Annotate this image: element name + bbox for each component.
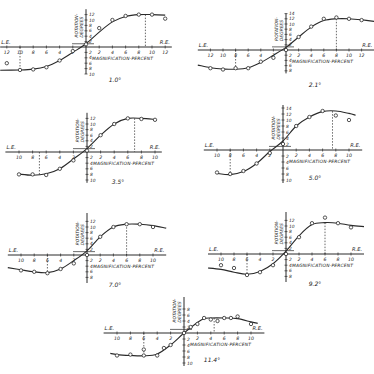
- x-tick-label: 4: [58, 50, 61, 55]
- x-tick-label: 2: [196, 336, 199, 341]
- x-tick-label: 8: [31, 155, 34, 160]
- panel-caption: 5.0°: [309, 174, 322, 181]
- data-point: [129, 353, 132, 356]
- data-point: [223, 316, 226, 319]
- data-point: [323, 216, 326, 219]
- data-point: [232, 266, 235, 269]
- data-point: [308, 115, 311, 118]
- y-tick-label: 6: [289, 235, 292, 240]
- y-tick-label: 4: [89, 34, 92, 39]
- y-tick-label: 6: [90, 133, 93, 138]
- data-point: [236, 315, 239, 318]
- y-tick-label: 12: [286, 112, 292, 117]
- x-axis-title: MAGNIFICATION-PERCENT: [190, 342, 251, 347]
- data-point: [140, 117, 143, 120]
- x-tick-label: 6: [321, 153, 324, 158]
- y-tick-label: 2: [90, 155, 93, 160]
- chart-panel-5-0-deg: 1086422468101412108642246810L.E.R.E.MAGN…: [204, 105, 362, 183]
- data-point: [113, 122, 116, 125]
- y-tick-label: 6: [90, 236, 93, 241]
- chart-panel-7-0-deg: 108642246810121086422468L.E.R.E.MAGNIFIC…: [8, 213, 166, 288]
- data-point: [209, 318, 212, 321]
- x-tick-label: 8: [137, 50, 140, 55]
- x-tick-label: 4: [308, 153, 311, 158]
- data-point: [196, 322, 199, 325]
- data-point: [209, 67, 212, 70]
- y-tick-label: 2: [90, 258, 93, 263]
- data-point: [215, 171, 218, 174]
- y-tick-label: 10: [90, 122, 96, 127]
- x-tick-label: 2: [99, 258, 102, 263]
- data-point: [124, 14, 127, 17]
- y-tick-label: 8: [187, 307, 190, 312]
- x-tick-label: 8: [138, 258, 141, 263]
- y-tick-label: 10: [89, 18, 95, 23]
- y-tick-label: 8: [89, 23, 92, 28]
- y-tick-label: 12: [89, 12, 95, 17]
- data-point: [137, 13, 140, 16]
- y-tick-label: 14: [286, 106, 292, 111]
- y-tick-label: 4: [187, 319, 190, 324]
- data-point: [72, 159, 75, 162]
- x-tick-label: 8: [236, 336, 239, 341]
- data-point: [245, 273, 248, 276]
- data-point: [258, 271, 261, 274]
- x-tick-label: 8: [233, 257, 236, 262]
- data-point: [5, 62, 8, 65]
- y-tick-label: 8: [90, 172, 93, 177]
- panel-caption: 3.5°: [112, 178, 125, 185]
- data-point: [310, 25, 313, 28]
- data-point: [17, 173, 20, 176]
- data-point: [33, 270, 36, 273]
- data-point: [255, 162, 258, 165]
- data-point: [71, 49, 74, 52]
- data-point: [271, 264, 274, 267]
- x-tick-label: 6: [45, 50, 48, 55]
- data-point: [32, 68, 35, 71]
- data-point: [151, 225, 154, 228]
- data-point: [162, 346, 165, 349]
- y-tick-label: 10: [286, 118, 292, 123]
- y-axis-title-line2: DEGREES: [79, 16, 84, 37]
- data-point: [99, 134, 102, 137]
- data-point: [229, 172, 232, 175]
- x-tick-label: 10: [149, 50, 155, 55]
- x-tick-label: 2: [295, 153, 298, 158]
- x-tick-label: 10: [152, 155, 158, 160]
- data-point: [99, 235, 102, 238]
- x-tick-label: 10: [16, 155, 22, 160]
- data-point: [242, 169, 245, 172]
- y-tick-label: 6: [187, 349, 190, 354]
- x-axis-title: MAGNIFICATION-PERCENT: [93, 264, 154, 269]
- data-point: [249, 322, 252, 325]
- y-tick-label: 6: [289, 268, 292, 273]
- y-tick-label: 8: [90, 275, 93, 280]
- y-tick-label: 6: [89, 28, 92, 33]
- x-tick-label: 8: [337, 257, 340, 262]
- x-axis-title: MAGNIFICATION-PERCENT: [93, 161, 154, 166]
- data-point: [45, 66, 48, 69]
- data-point: [259, 60, 262, 63]
- x-tick-label: 10: [18, 258, 24, 263]
- right-eye-label: R.E.: [150, 144, 160, 150]
- chart-panel-3-5-deg: 10864224681012108642246810L.E.R.E.MAGNIF…: [5, 113, 161, 185]
- x-tick-label: 2: [298, 257, 301, 262]
- y-tick-label: 8: [90, 230, 93, 235]
- x-tick-label: 4: [209, 336, 212, 341]
- chart-panel-9-2-deg: 108642246810121086422468L.E.R.E.MAGNIFIC…: [208, 212, 364, 287]
- data-point: [202, 316, 205, 319]
- y-tick-label: 8: [89, 66, 92, 71]
- data-point: [19, 269, 22, 272]
- x-tick-label: 4: [58, 155, 61, 160]
- data-point: [169, 343, 172, 346]
- data-point: [126, 117, 129, 120]
- data-point: [284, 252, 287, 255]
- data-point: [334, 114, 337, 117]
- x-tick-label: 4: [59, 258, 62, 263]
- y-tick-label: 8: [286, 124, 289, 129]
- x-tick-label: 4: [259, 257, 262, 262]
- x-tick-label: 2: [272, 257, 275, 262]
- y-tick-label: 10: [289, 224, 295, 229]
- x-tick-label: 2: [99, 155, 102, 160]
- data-point: [125, 223, 128, 226]
